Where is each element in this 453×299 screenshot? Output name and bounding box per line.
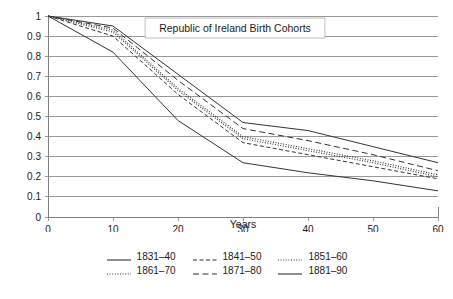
series-line (48, 16, 438, 179)
data-series-group (48, 16, 438, 191)
x-axis-tick-label: 60 (432, 224, 444, 232)
series-line (48, 16, 438, 191)
legend-swatch (106, 265, 132, 275)
y-axis-tick-label: 0.2 (27, 171, 41, 182)
x-axis-tick-label: 40 (302, 224, 314, 232)
y-axis-tick-label: 0.7 (27, 71, 41, 82)
legend-swatch (277, 265, 303, 275)
legend-row: 1831–401841–501851–60 (0, 249, 453, 263)
y-axis-tick-label: 0.1 (27, 191, 41, 202)
legend-line-swatch (277, 255, 303, 265)
legend-label: 1831–40 (137, 251, 176, 262)
legend-swatch (277, 251, 303, 261)
legend-line-swatch (277, 269, 303, 279)
line-chart-svg: 00.10.20.30.40.50.60.70.80.91 0102030405… (0, 0, 453, 232)
legend-swatch (106, 251, 132, 261)
legend-line-swatch (192, 269, 218, 279)
x-axis-tick-label: 50 (367, 224, 379, 232)
y-axis-tick-label: 0.4 (27, 131, 41, 142)
y-axis-tick-labels: 00.10.20.30.40.50.60.70.80.91 (27, 11, 48, 223)
legend-label: 1851–60 (308, 251, 347, 262)
y-axis-tick-label: 0.8 (27, 51, 41, 62)
x-axis-tick-label: 0 (45, 224, 51, 232)
chart-legend: 1831–401841–501851–60 1861–701871–801881… (0, 249, 453, 277)
y-axis-tick-label: 1 (35, 11, 41, 22)
legend-item[interactable]: 1871–80 (192, 265, 262, 276)
legend-label: 1871–80 (223, 265, 262, 276)
legend-item[interactable]: 1851–60 (277, 251, 347, 262)
y-axis-tick-label: 0.6 (27, 91, 41, 102)
legend-item[interactable]: 1881–90 (277, 265, 347, 276)
legend-swatch (192, 265, 218, 275)
chart-title: Republic of Ireland Birth Cohorts (159, 22, 311, 34)
series-line (48, 16, 438, 175)
gridlines (48, 16, 438, 217)
x-axis-title: Years (230, 218, 256, 230)
y-axis-tick-label: 0 (35, 212, 41, 223)
legend-line-swatch (192, 255, 218, 265)
chart-figure: 00.10.20.30.40.50.60.70.80.91 0102030405… (0, 0, 453, 299)
x-axis-tick-label: 20 (172, 224, 184, 232)
plot-area-container: 00.10.20.30.40.50.60.70.80.91 0102030405… (0, 0, 453, 232)
x-axis-tick-label: 10 (107, 224, 119, 232)
y-axis-tick-label: 0.9 (27, 31, 41, 42)
legend-line-swatch (106, 255, 132, 265)
legend-row: 1861–701871–801881–90 (0, 263, 453, 277)
legend-label: 1861–70 (137, 265, 176, 276)
legend-label: 1881–90 (308, 265, 347, 276)
y-axis-tick-label: 0.5 (27, 111, 41, 122)
legend-item[interactable]: 1841–50 (192, 251, 262, 262)
legend-item[interactable]: 1861–70 (106, 265, 176, 276)
legend-label: 1841–50 (223, 251, 262, 262)
y-axis-tick-label: 0.3 (27, 151, 41, 162)
legend-item[interactable]: 1831–40 (106, 251, 176, 262)
legend-line-swatch (106, 269, 132, 279)
legend-swatch (192, 251, 218, 261)
series-line (48, 16, 438, 171)
chart-title-box: Republic of Ireland Birth Cohorts (145, 18, 325, 38)
